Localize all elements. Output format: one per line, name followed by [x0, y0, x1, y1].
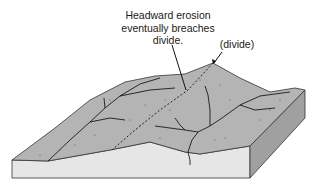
label-line-1: Headward erosion: [112, 9, 224, 22]
divide-label: (divide): [213, 38, 261, 51]
label-line-3: divide.: [112, 34, 224, 47]
headward-erosion-label: Headward erosion eventually breaches div…: [112, 9, 224, 47]
label-line-2: eventually breaches: [112, 22, 224, 35]
